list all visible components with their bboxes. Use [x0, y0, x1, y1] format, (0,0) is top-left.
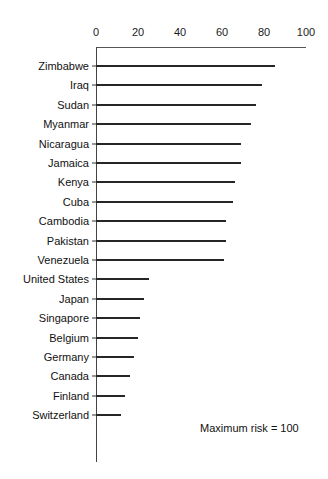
bar: [96, 375, 130, 377]
bar: [96, 356, 134, 358]
x-tick-label: 60: [216, 26, 228, 38]
x-tick-label: 100: [297, 26, 315, 38]
category-label: Sudan: [57, 99, 89, 111]
bar: [96, 259, 224, 261]
bar: [96, 143, 241, 145]
x-tick-label: 80: [258, 26, 270, 38]
x-tick-label: 0: [93, 26, 99, 38]
max-risk-annotation: Maximum risk = 100: [200, 422, 299, 435]
category-label: Jamaica: [48, 157, 89, 169]
category-label: Japan: [59, 293, 89, 305]
bar: [96, 201, 233, 203]
bar: [96, 84, 262, 86]
category-label: Canada: [50, 370, 89, 382]
category-label: Pakistan: [47, 235, 89, 247]
bar: [96, 181, 235, 183]
x-tick-label: 40: [174, 26, 186, 38]
category-label: Venezuela: [38, 254, 89, 266]
bar: [96, 104, 256, 106]
category-label: Germany: [44, 351, 89, 363]
category-label: United States: [23, 273, 89, 285]
category-label: Finland: [53, 390, 89, 402]
bar: [96, 240, 226, 242]
category-label: Switzerland: [32, 409, 89, 421]
bar: [96, 162, 241, 164]
category-label: Cuba: [63, 196, 89, 208]
bar: [96, 65, 275, 67]
x-tick-label: 20: [132, 26, 144, 38]
category-label: Singapore: [39, 312, 89, 324]
bar: [96, 278, 149, 280]
category-label: Iraq: [70, 79, 89, 91]
category-label: Cambodia: [39, 215, 89, 227]
category-label: Myanmar: [43, 118, 89, 130]
bar: [96, 395, 125, 397]
bar: [96, 414, 121, 416]
category-label: Nicaragua: [39, 138, 89, 150]
bar: [96, 298, 144, 300]
category-label: Zimbabwe: [38, 60, 89, 72]
plot-area: ZimbabweIraqSudanMyanmarNicaraguaJamaica…: [96, 47, 306, 462]
bar: [96, 123, 251, 125]
chart-container: 020406080100 ZimbabweIraqSudanMyanmarNic…: [0, 0, 328, 479]
bar: [96, 317, 140, 319]
bar: [96, 220, 226, 222]
category-label: Belgium: [49, 332, 89, 344]
bar: [96, 337, 138, 339]
category-label: Kenya: [58, 176, 89, 188]
